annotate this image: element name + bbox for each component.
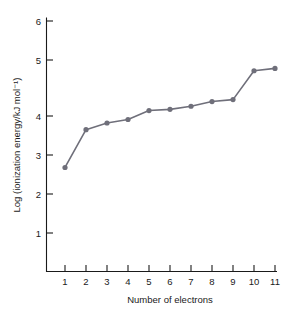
x-tick-label-2: 2: [83, 276, 88, 287]
data-point: [209, 99, 214, 104]
x-tick-label-8: 8: [209, 276, 214, 287]
data-point: [104, 120, 109, 125]
ionization-energy-line-chart: 6 5 4 3 2 1 1 2 3 4 5 6: [0, 0, 294, 323]
x-tick-label-5: 5: [146, 276, 151, 287]
x-tick-label-6: 6: [167, 276, 172, 287]
data-point: [188, 104, 193, 109]
x-tick-label-1: 1: [62, 276, 67, 287]
x-tick-label-9: 9: [230, 276, 235, 287]
x-tick-label-11: 11: [270, 276, 280, 287]
x-axis-title: Number of electrons: [127, 294, 213, 305]
y-tick-label-1: 1: [36, 228, 41, 239]
data-point: [146, 108, 151, 113]
data-point: [230, 97, 235, 102]
y-tick-label-3: 3: [36, 150, 41, 161]
y-tick-label-2: 2: [36, 189, 41, 200]
data-point: [83, 127, 88, 132]
chart-figure: 6 5 4 3 2 1 1 2 3 4 5 6: [0, 0, 294, 323]
x-tick-label-4: 4: [125, 276, 130, 287]
data-point: [167, 107, 172, 112]
data-point: [62, 165, 67, 170]
chart-background: [0, 0, 294, 323]
y-tick-label-6: 6: [36, 16, 41, 27]
x-tick-label-7: 7: [188, 276, 193, 287]
data-point: [251, 68, 256, 73]
y-tick-label-4: 4: [36, 111, 41, 122]
x-tick-label-3: 3: [104, 276, 109, 287]
y-axis-title: Log (ionization energy/kJ mol⁻¹): [11, 78, 22, 213]
y-tick-label-5: 5: [36, 55, 41, 66]
data-point: [125, 117, 130, 122]
data-point: [272, 66, 277, 71]
x-tick-label-10: 10: [249, 276, 260, 287]
